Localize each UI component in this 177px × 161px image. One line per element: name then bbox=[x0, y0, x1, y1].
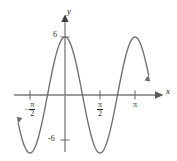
x-axis-arrowhead bbox=[155, 91, 164, 99]
fraction-half-pi: π2 bbox=[97, 101, 103, 119]
x-tick-label-neg-half-pi: −π2 bbox=[18, 101, 42, 119]
fraction-denominator: 2 bbox=[29, 110, 35, 118]
fraction-denominator: 2 bbox=[97, 110, 103, 118]
x-tick-label-half-pi: π2 bbox=[92, 101, 108, 119]
graph-canvas bbox=[0, 0, 177, 161]
y-tick-label-6: 6 bbox=[53, 30, 57, 39]
y-axis-label: y bbox=[67, 6, 71, 16]
x-axis-label: x bbox=[166, 86, 170, 96]
fraction-neg-half-pi: π2 bbox=[29, 101, 35, 119]
x-tick-label-pi: π bbox=[128, 101, 142, 109]
y-tick-label-neg-6: -6 bbox=[48, 134, 55, 143]
graph-figure: y x 6 -6 −π2 π2 π bbox=[0, 0, 177, 161]
